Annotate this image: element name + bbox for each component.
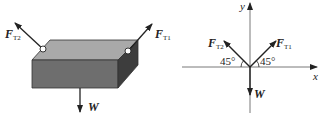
label-ft2-right: FT2 (207, 36, 224, 51)
angle-label-right: 45° (260, 55, 275, 67)
x-axis-label: x (312, 70, 318, 82)
diagram-canvas: FT2 FT1 W x y FT2 FT1 W 45° 45° (0, 0, 322, 118)
label-weight-left: W (88, 100, 100, 114)
label-weight-right: W (254, 87, 266, 101)
attachment-point-left (40, 46, 46, 52)
angle-arc-left (241, 61, 244, 67)
label-ft2-left: FT2 (4, 27, 21, 42)
angle-arc-right (256, 61, 259, 67)
block (32, 40, 138, 88)
attachment-point-right (125, 48, 131, 54)
label-ft1-right: FT1 (275, 36, 292, 51)
label-ft1-left: FT1 (154, 27, 171, 42)
block-front-face (32, 60, 118, 88)
ft1-arrow (128, 24, 152, 51)
y-axis-label: y (239, 0, 245, 12)
angle-label-left: 45° (220, 55, 235, 67)
